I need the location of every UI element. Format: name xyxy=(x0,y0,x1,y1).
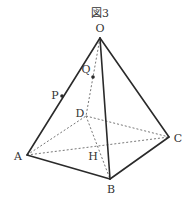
point-Q-dot xyxy=(91,75,95,79)
label-H: H xyxy=(88,150,98,163)
label-C: C xyxy=(174,132,182,145)
label-D: D xyxy=(76,107,85,120)
point-P-dot xyxy=(60,94,64,98)
label-O: O xyxy=(95,22,104,35)
label-P: P xyxy=(51,89,59,102)
edge-AD xyxy=(27,116,86,155)
label-B: B xyxy=(107,183,115,196)
figure-title: 図3 xyxy=(91,7,109,20)
pyramid-diagram: 図3 O A B C D H P Q xyxy=(0,0,193,206)
label-Q: Q xyxy=(81,63,90,76)
label-A: A xyxy=(13,150,23,163)
